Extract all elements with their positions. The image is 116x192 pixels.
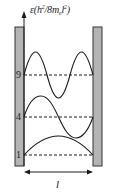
unit-close: ) [67, 4, 70, 15]
arrowhead-left-icon [24, 170, 30, 175]
right-wall [93, 27, 102, 166]
particle-in-box-diagram: ε(h2/8mel2) 9 4 1 l [0, 0, 116, 192]
unit-h: (h [34, 4, 42, 15]
diagram-canvas [0, 0, 116, 192]
arrowhead-right-icon [87, 170, 93, 175]
energy-axis-label: ε(h2/8mel2) [30, 4, 70, 16]
left-wall [15, 27, 24, 166]
level-label-1: 1 [16, 150, 21, 160]
wavefunction-n1 [24, 136, 93, 155]
level-label-4: 4 [16, 112, 21, 122]
box-length-label: l [56, 178, 59, 190]
axis-arrowhead-icon [22, 11, 27, 18]
unit-8m: /8m [45, 4, 59, 15]
level-label-9: 9 [16, 70, 21, 80]
